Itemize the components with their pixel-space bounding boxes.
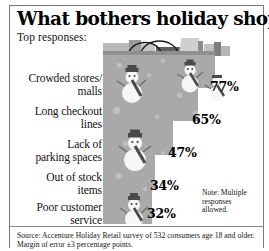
snowflake-icon xyxy=(155,115,159,119)
category-label-line2: lines xyxy=(81,118,102,130)
value-label-customer-service: 32% xyxy=(147,206,176,221)
category-label-crowded-stores: Crowded stores/ malls xyxy=(14,72,102,97)
page-title: What bothers holiday shoppers xyxy=(17,8,257,29)
category-label-line2: items xyxy=(78,184,102,196)
category-label-line1: Long checkout xyxy=(35,105,102,117)
value-label-out-of-stock: 34% xyxy=(150,178,179,193)
category-label-line1: Lack of xyxy=(67,138,102,150)
snowflake-icon xyxy=(161,151,165,155)
category-label-line2: parking spaces xyxy=(35,151,102,163)
category-label-customer-service: Poor customer service xyxy=(14,201,102,226)
source-credit: Source: Accenture Holiday Retail survey … xyxy=(17,231,257,249)
chart-note: Note: Multiple responses allowed. xyxy=(202,189,258,215)
chart-frame-right-edge xyxy=(263,5,264,248)
snowflake-icon xyxy=(113,107,120,114)
source-divider xyxy=(10,226,263,227)
category-label-line2: malls xyxy=(78,85,102,97)
category-label-parking-spaces: Lack of parking spaces xyxy=(14,138,102,163)
category-label-line1: Out of stock xyxy=(46,171,102,183)
snowman-icon xyxy=(117,127,153,173)
snowman-icon xyxy=(175,57,205,95)
category-label-out-of-stock: Out of stock items xyxy=(14,171,102,196)
value-label-crowded-stores: 77% xyxy=(210,79,239,94)
snowflake-icon xyxy=(161,59,165,63)
category-label-line1: Crowded stores/ xyxy=(28,72,102,84)
snowflake-icon xyxy=(116,173,122,179)
snowman-icon xyxy=(115,63,149,105)
category-label-line1: Poor customer xyxy=(37,201,102,213)
bar-staircase xyxy=(103,55,215,224)
value-label-checkout-lines: 65% xyxy=(192,112,221,127)
category-label-line2: service xyxy=(70,214,102,226)
category-label-checkout-lines: Long checkout lines xyxy=(14,105,102,130)
value-label-parking-spaces: 47% xyxy=(168,145,197,160)
snowman-icon xyxy=(119,191,149,224)
infographic-root: What bothers holiday shoppers Top respon… xyxy=(0,0,269,251)
